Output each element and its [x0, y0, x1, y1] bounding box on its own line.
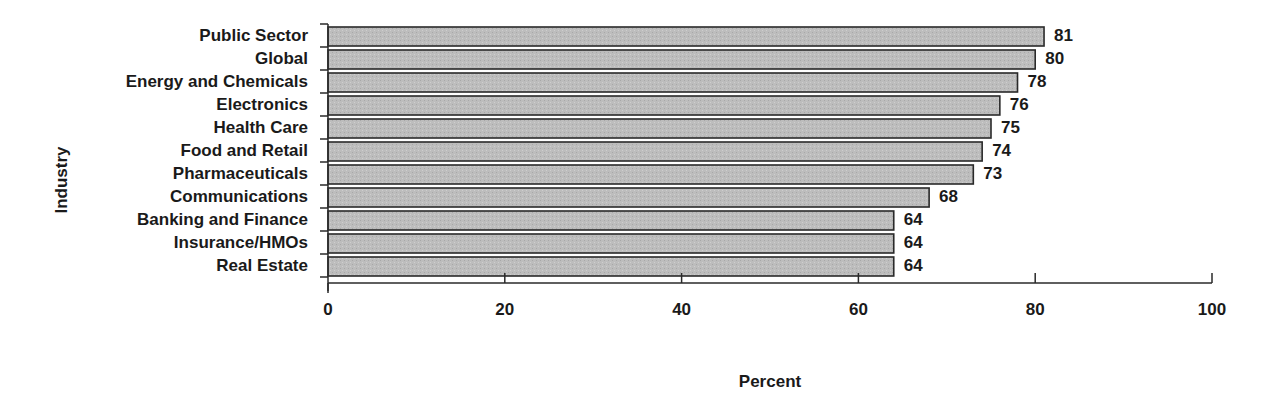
bar	[328, 27, 1044, 46]
y-axis-label: Industry	[52, 146, 71, 214]
category-label: Global	[255, 49, 308, 68]
y-axis-ticks	[320, 24, 328, 291]
bar-row: Electronics76	[216, 95, 1028, 115]
bar	[328, 96, 1000, 115]
category-label: Banking and Finance	[137, 210, 308, 229]
bar-row: Communications68	[170, 187, 958, 207]
x-tick-label: 60	[849, 300, 868, 319]
category-label: Energy and Chemicals	[126, 72, 308, 91]
value-label: 74	[992, 141, 1011, 160]
value-label: 76	[1010, 95, 1029, 114]
y-axis-title: Industry	[52, 146, 71, 214]
bar	[328, 211, 894, 230]
bar	[328, 188, 929, 207]
category-label: Health Care	[214, 118, 308, 137]
bar-chart: Industry Public Sector81Global80Energy a…	[0, 0, 1271, 404]
value-label: 73	[983, 164, 1002, 183]
bars-group: Public Sector81Global80Energy and Chemic…	[126, 26, 1073, 276]
bar	[328, 50, 1035, 69]
x-tick-label: 100	[1198, 300, 1226, 319]
bar-row: Public Sector81	[199, 26, 1073, 46]
x-axis: 020406080100	[323, 273, 1226, 319]
value-label: 80	[1045, 49, 1064, 68]
bar	[328, 142, 982, 161]
bar-row: Insurance/HMOs64	[174, 233, 923, 253]
category-label: Electronics	[216, 95, 308, 114]
bar	[328, 257, 894, 276]
x-tick-label: 0	[323, 300, 332, 319]
value-label: 68	[939, 187, 958, 206]
bar-row: Real Estate64	[216, 256, 923, 276]
bar	[328, 119, 991, 138]
x-tick-label: 20	[495, 300, 514, 319]
bar-row: Food and Retail74	[181, 141, 1012, 161]
bar-row: Banking and Finance64	[137, 210, 923, 230]
category-label: Food and Retail	[181, 141, 309, 160]
bar	[328, 73, 1018, 92]
bar-row: Health Care75	[214, 118, 1020, 138]
value-label: 78	[1028, 72, 1047, 91]
value-label: 81	[1054, 26, 1073, 45]
value-label: 64	[904, 233, 923, 252]
category-label: Communications	[170, 187, 308, 206]
value-label: 64	[904, 210, 923, 229]
bar-row: Pharmaceuticals73	[173, 164, 1002, 184]
bar	[328, 165, 973, 184]
category-label: Insurance/HMOs	[174, 233, 308, 252]
category-label: Pharmaceuticals	[173, 164, 308, 183]
bar-row: Global80	[255, 49, 1064, 69]
x-axis-label: Percent	[739, 372, 802, 391]
value-label: 75	[1001, 118, 1020, 137]
bar-row: Energy and Chemicals78	[126, 72, 1047, 92]
category-label: Public Sector	[199, 26, 308, 45]
x-tick-label: 40	[672, 300, 691, 319]
bar	[328, 234, 894, 253]
category-label: Real Estate	[216, 256, 308, 275]
value-label: 64	[904, 256, 923, 275]
x-tick-label: 80	[1026, 300, 1045, 319]
